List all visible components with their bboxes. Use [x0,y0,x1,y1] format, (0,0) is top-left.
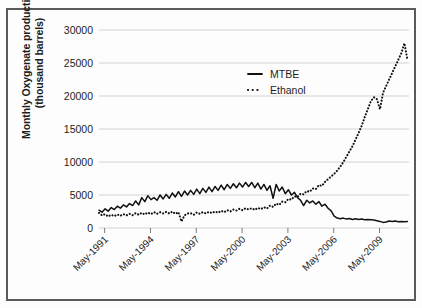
x-tick-label: May-2000 [208,233,248,273]
chart-legend: MTBEEthanol [248,68,306,96]
y-tick-label: 5000 [70,189,94,201]
y-tick-label: 30000 [64,24,93,36]
y-tick-label: 25000 [64,57,93,69]
y-tick-label: 20000 [64,90,93,102]
x-tick-label: May-2003 [254,233,294,273]
x-tick-label: May-1997 [162,233,202,273]
x-tick-label: May-2009 [346,233,386,273]
series-line-mtbe [99,182,407,222]
y-tick-label-group: 300002500020000150001000050000 [64,24,93,234]
chart-figure: Monthly Oxygenate production (thousand b… [0,0,422,308]
y-tick-label: 0 [87,222,93,234]
gridlines-group [99,30,409,228]
legend-label-ethanol: Ethanol [270,84,306,96]
x-tick-mark-group [105,228,380,233]
y-tick-label: 15000 [64,123,93,135]
legend-label-mtbe: MTBE [270,68,299,80]
series-group [99,43,407,222]
x-tick-label-group: May-1991May-1994May-1997May-2000May-2003… [71,233,385,273]
y-tick-label: 10000 [64,156,93,168]
x-tick-label: May-1994 [117,233,157,273]
x-tick-label: May-2006 [300,233,340,273]
x-tick-label: May-1991 [71,233,111,273]
chart-canvas: 300002500020000150001000050000 May-1991M… [0,0,422,308]
